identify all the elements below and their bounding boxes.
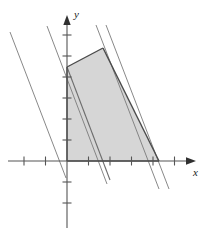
- linear-programming-figure: y x: [0, 0, 215, 232]
- x-axis-arrowhead: [186, 157, 196, 164]
- y-axis-arrowhead: [63, 15, 70, 25]
- plot-canvas: [0, 0, 215, 232]
- y-axis-label: y: [74, 8, 79, 20]
- x-axis-label: x: [193, 166, 198, 178]
